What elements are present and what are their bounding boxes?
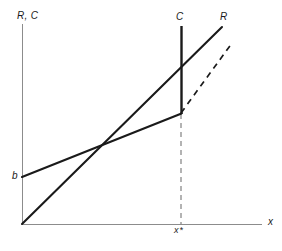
- breakeven-tick-label: x*: [174, 226, 184, 235]
- cost-intercept-label: b: [12, 171, 18, 181]
- x-axis-label: x: [268, 217, 273, 227]
- cost-line-segment: [22, 114, 182, 178]
- cost-extension-dashed-line: [181, 43, 232, 113]
- y-axis-label: R, C: [17, 11, 38, 21]
- figure-root: R, C C R b x x*: [0, 0, 282, 251]
- cost-curve-label: C: [176, 12, 184, 22]
- revenue-line: [22, 27, 222, 224]
- plot-canvas: [0, 0, 282, 251]
- breakeven-star-text: *: [179, 225, 184, 235]
- revenue-curve-label: R: [220, 12, 228, 22]
